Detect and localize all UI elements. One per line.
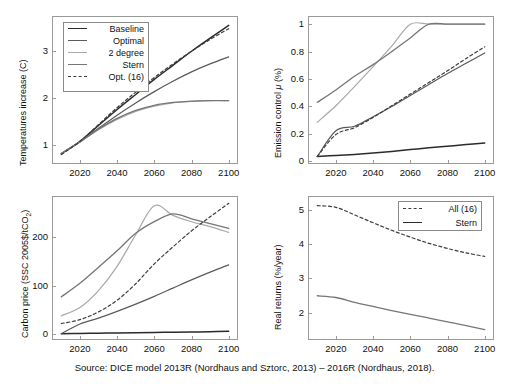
legend-label: All (16) xyxy=(448,202,477,216)
x-tickmark xyxy=(448,336,449,340)
y-tick-label: 5 xyxy=(274,204,304,215)
y-tick-label: 2 xyxy=(274,307,304,318)
x-tickmark xyxy=(373,336,374,340)
x-tick-label: 2080 xyxy=(430,343,466,354)
y-tickmark xyxy=(308,313,312,314)
x-tick-label: 2060 xyxy=(392,343,428,354)
x-tickmark xyxy=(485,336,486,340)
y-tickmark xyxy=(308,278,312,279)
y-tick-label: 4 xyxy=(274,238,304,249)
legend-item: All (16) xyxy=(399,202,481,216)
legend-label: Stern xyxy=(455,216,477,230)
x-tickmark xyxy=(336,336,337,340)
x-tickmark xyxy=(410,336,411,340)
legend-real-returns: All (16) Stern xyxy=(398,201,482,231)
plot-lines-real-returns xyxy=(0,0,509,384)
x-tick-label: 2100 xyxy=(467,343,503,354)
y-tick-label: 3 xyxy=(274,272,304,283)
legend-line-sample xyxy=(403,222,422,223)
x-tick-label: 2020 xyxy=(318,343,354,354)
y-tickmark xyxy=(308,244,312,245)
legend-line-sample xyxy=(403,208,422,209)
legend-item: Stern xyxy=(399,216,481,230)
figure-root: Temperatures increase (C) 20202040206020… xyxy=(0,0,509,384)
y-tickmark xyxy=(308,210,312,211)
figure-caption: Source: DICE model 2013R (Nordhaus and S… xyxy=(0,362,509,373)
series-line xyxy=(317,296,484,330)
x-tick-label: 2040 xyxy=(355,343,391,354)
